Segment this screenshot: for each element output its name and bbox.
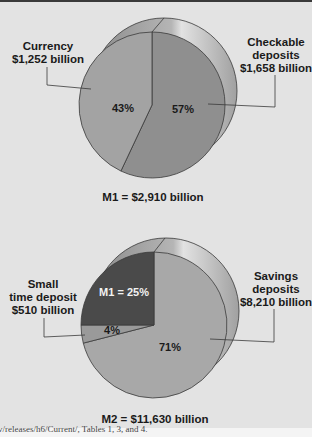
svg-text:Small: Small [28, 278, 59, 290]
m1-checkable-percent: 57% [172, 103, 194, 115]
svg-text:$1,252 billion: $1,252 billion [12, 53, 84, 65]
svg-text:$1,658 billion: $1,658 billion [240, 62, 312, 74]
m1-checkable-label: Checkable deposits $1,658 billion [240, 36, 312, 74]
m2-m1-percent: M1 = 25% [99, 286, 149, 298]
m1-total-label: M1 = $2,910 billion [102, 191, 203, 203]
svg-text:Checkable: Checkable [247, 36, 305, 48]
m2-small-time-leader-line [44, 318, 85, 337]
svg-text:Savings: Savings [254, 270, 298, 282]
source-note: v/releases/h6/Current/, Tables 1, 3, and… [0, 424, 147, 434]
svg-text:time deposit: time deposit [9, 291, 77, 303]
m2-savings-label: Savings deposits $8,210 billion [240, 270, 312, 308]
svg-text:$510 billion: $510 billion [12, 304, 75, 316]
m2-small-time-percent: 4% [104, 324, 120, 336]
m1-currency-percent: 43% [112, 102, 134, 114]
m2-savings-percent: 71% [159, 341, 181, 353]
svg-text:deposits: deposits [252, 49, 299, 61]
m2-pie-chart: M1 = 25% 4% 71% Small time deposit $510 … [9, 238, 312, 425]
svg-text:Currency: Currency [23, 40, 74, 52]
money-supply-charts: 43% 57% Currency $1,252 billion Checkabl… [0, 0, 312, 437]
svg-text:deposits: deposits [252, 283, 299, 295]
svg-text:$8,210 billion: $8,210 billion [240, 296, 312, 308]
m1-currency-label: Currency $1,252 billion [12, 40, 84, 65]
m1-pie-chart: 43% 57% Currency $1,252 billion Checkabl… [12, 18, 312, 203]
m2-small-time-label: Small time deposit $510 billion [9, 278, 77, 316]
